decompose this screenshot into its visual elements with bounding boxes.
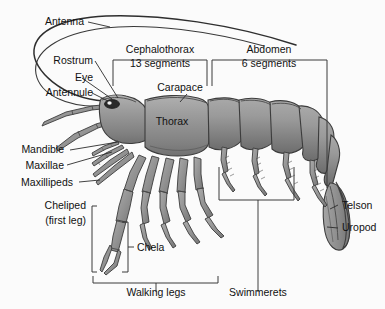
eye-highlight — [107, 101, 111, 104]
label-cephalothorax-detail: 13 segments — [130, 57, 190, 69]
label-uropod: Uropod — [342, 221, 377, 233]
label-abdomen: Abdomen — [247, 43, 292, 55]
label-cheliped: Cheliped — [45, 199, 87, 211]
label-rostrum: Rostrum — [53, 54, 93, 66]
label-thorax: Thorax — [156, 115, 189, 127]
label-eye: Eye — [75, 71, 93, 83]
label-telson: Telson — [342, 199, 373, 211]
label-abdomen-detail: 6 segments — [242, 57, 296, 69]
label-cephalothorax: Cephalothorax — [126, 43, 195, 55]
eye-shape — [105, 100, 120, 109]
label-antennule: Antennule — [46, 86, 93, 98]
label-mandible: Mandible — [21, 143, 64, 155]
label-walking-legs: Walking legs — [126, 286, 185, 298]
label-swimmerets: Swimmerets — [229, 286, 287, 298]
label-antenna: Antenna — [45, 15, 84, 27]
crayfish-anatomy-diagram: Antenna Rostrum Eye Antennule Mandible M… — [0, 0, 385, 309]
label-maxillae: Maxillae — [25, 159, 64, 171]
label-chela: Chela — [137, 241, 165, 253]
label-carapace: Carapace — [157, 81, 203, 93]
label-maxillipeds: Maxillipeds — [21, 176, 73, 188]
label-cheliped-detail: (first leg) — [45, 214, 86, 226]
